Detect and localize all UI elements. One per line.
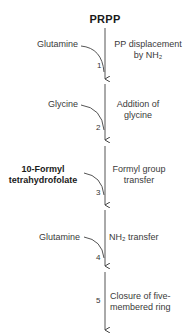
step-1-description-line2: by NH₂ [108, 50, 188, 61]
formyl-curve [84, 173, 104, 195]
glutamine-curve-4 [84, 237, 104, 258]
step-2-substrate: Glycine [10, 99, 78, 110]
prpp-label: PRPP [85, 13, 125, 25]
step-3-description-line1: Formyl group [106, 164, 172, 175]
step-1-number: 1 [97, 61, 101, 70]
step-3-substrate-line1: 10-Formyl [6, 164, 80, 175]
step-4-substrate: Glutamine [10, 232, 80, 243]
step-1-substrate: Glutamine [10, 39, 78, 50]
step-2-description-line2: glycine [104, 110, 172, 121]
glycine-curve [81, 105, 104, 130]
step-1-description-line1: PP displacement [108, 39, 188, 50]
step-4-description-line1: NH₂ transfer [109, 232, 159, 243]
step-2-number: 2 [96, 123, 100, 132]
step-4-number: 4 [96, 253, 100, 262]
step-3-substrate-line2: tetrahydrofolate [6, 175, 80, 186]
step-3-number: 3 [96, 188, 100, 197]
step-5-description-line1: Closure of five- [110, 291, 171, 302]
step-3-description-line2: transfer [106, 175, 172, 186]
step-5-description-line2: membered ring [110, 302, 171, 313]
step-5-number: 5 [96, 296, 100, 305]
step-2-description-line1: Addition of [104, 99, 172, 110]
